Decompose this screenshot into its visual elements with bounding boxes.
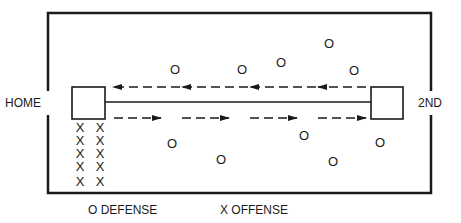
boundary-left-lower bbox=[48, 115, 431, 193]
defense-player-9: O bbox=[328, 154, 338, 169]
legend-defense: O DEFENSE bbox=[88, 203, 157, 217]
offense-player-7: X bbox=[76, 159, 85, 174]
second-base-label: 2ND bbox=[418, 96, 442, 110]
defense-player-10: O bbox=[375, 135, 385, 150]
defense-player-3: O bbox=[276, 55, 286, 70]
offense-player-8: X bbox=[96, 159, 105, 174]
defense-player-6: O bbox=[167, 136, 177, 151]
defense-player-8: O bbox=[299, 128, 309, 143]
defense-player-4: O bbox=[324, 36, 334, 51]
home-label: HOME bbox=[5, 96, 41, 110]
field-diagram: HOME 2ND OOOOOOOOOO XXXXXXXXXX O DEFENSE… bbox=[0, 0, 461, 223]
offense-players: XXXXXXXXXX bbox=[76, 120, 105, 189]
offense-player-10: X bbox=[96, 174, 105, 189]
legend-offense: X OFFENSE bbox=[220, 203, 288, 217]
defense-player-2: O bbox=[237, 62, 247, 77]
defense-player-7: O bbox=[216, 152, 226, 167]
second-base-box bbox=[371, 87, 403, 119]
defense-player-5: O bbox=[349, 63, 359, 78]
defense-player-1: O bbox=[170, 62, 180, 77]
boundary-top-and-left-upper bbox=[48, 13, 431, 91]
offense-player-9: X bbox=[76, 174, 85, 189]
home-base-box bbox=[72, 87, 105, 119]
